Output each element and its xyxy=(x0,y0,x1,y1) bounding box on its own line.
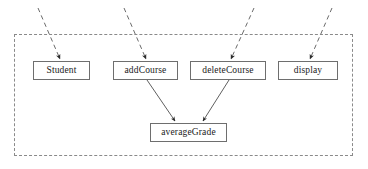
node-student-label: Student xyxy=(46,66,76,76)
node-delete-course[interactable]: deleteCourse xyxy=(190,61,266,80)
node-delete-course-label: deleteCourse xyxy=(202,66,253,76)
node-average-grade-label: averageGrade xyxy=(161,128,216,138)
node-display-label: display xyxy=(294,66,323,76)
node-student[interactable]: Student xyxy=(33,61,90,80)
node-average-grade[interactable]: averageGrade xyxy=(150,123,227,142)
edge-external-top-1-to-student xyxy=(38,8,60,59)
uml-dependency-diagram: Student addCourse deleteCourse display a… xyxy=(0,0,368,169)
edge-deleteCourse-to-averageGrade xyxy=(203,80,229,121)
edge-external-top-2-to-addCourse xyxy=(124,8,146,59)
edge-external-top-3-to-deleteCourse xyxy=(231,8,254,59)
edge-addCourse-to-averageGrade xyxy=(147,80,175,121)
node-add-course-label: addCourse xyxy=(125,66,167,76)
node-display[interactable]: display xyxy=(278,61,338,80)
edge-layer xyxy=(0,0,368,169)
node-add-course[interactable]: addCourse xyxy=(113,61,178,80)
edge-external-top-4-to-display xyxy=(310,8,332,59)
